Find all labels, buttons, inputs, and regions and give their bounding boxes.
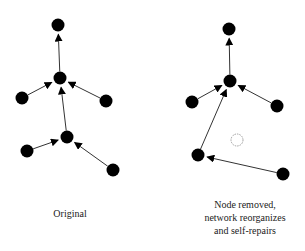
- repaired-node-mid: [224, 75, 237, 88]
- repaired-node-right: [271, 100, 284, 113]
- original-node-left: [16, 92, 29, 105]
- repaired-node-lower_left: [192, 149, 205, 162]
- original-node-lower_left: [21, 145, 34, 158]
- repaired-edge-lower_right-to-lower_left: [207, 157, 276, 173]
- original-edge-lower-to-mid: [61, 87, 66, 130]
- repaired-node-top: [223, 23, 236, 36]
- original-edge-left-to-mid: [28, 82, 52, 95]
- removed-node: [231, 134, 243, 146]
- original-node-lower_right: [107, 164, 120, 177]
- repaired-edge-right-to-mid: [238, 85, 271, 102]
- original-edge-mid-to-top: [58, 34, 59, 71]
- caption-line-3: and self-repairs: [190, 224, 300, 237]
- repaired-edge-mid-to-top: [229, 38, 230, 74]
- caption-repaired: Node removed, network reorganizes and se…: [190, 198, 300, 237]
- repaired-node-left: [186, 96, 199, 109]
- original-node-lower: [61, 131, 74, 144]
- original-node-right: [100, 95, 113, 108]
- repaired-edge-lower_left-to-mid: [201, 90, 227, 149]
- original-node-top: [52, 19, 65, 32]
- original-edge-lower_left-to-lower: [33, 140, 58, 149]
- original-edge-lower_right-to-lower: [75, 143, 108, 167]
- caption-line-2: network reorganizes: [190, 211, 300, 224]
- caption-line-1: Node removed,: [190, 198, 300, 211]
- repaired-node-lower_right: [277, 168, 290, 181]
- original-node-mid: [54, 72, 67, 85]
- repaired-edge-left-to-mid: [198, 86, 222, 99]
- caption-original: Original: [30, 207, 110, 220]
- original-edge-right-to-mid: [68, 82, 100, 98]
